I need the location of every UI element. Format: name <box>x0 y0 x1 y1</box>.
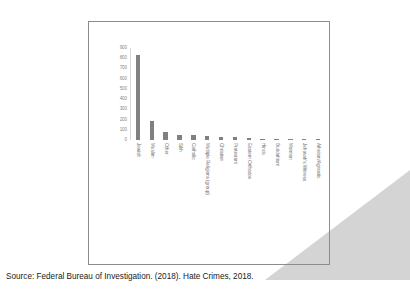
x-label-slot: Mormon <box>283 142 297 262</box>
source-caption: Source: Federal Bureau of Investigation.… <box>6 272 254 282</box>
x-axis-tick-label: Jewish <box>135 143 140 157</box>
x-axis-tick-label: Protestant <box>232 143 237 164</box>
x-axis-labels: JewishMuslimOtherSikhCatholicMultiple Re… <box>131 142 325 262</box>
bar-slot <box>173 48 187 140</box>
bar <box>219 137 224 140</box>
x-axis-tick-label: Muslim <box>149 143 154 158</box>
bar-series <box>131 48 325 140</box>
x-label-slot: Jewish <box>131 142 145 262</box>
x-label-slot: Hindu <box>256 142 270 262</box>
bar-slot <box>256 48 270 140</box>
bar-slot <box>131 48 145 140</box>
x-axis-tick-label: Eastern Orthodox <box>246 143 251 179</box>
y-axis-tick-label: 500 <box>120 87 127 92</box>
x-axis-tick-label: Mormon <box>288 143 293 160</box>
x-axis-tick-label: Christian <box>219 143 224 161</box>
y-axis-tick-label: 200 <box>120 117 127 122</box>
bar <box>302 139 307 140</box>
chart-frame: 9008007006005004003002001000 JewishMusli… <box>88 21 330 265</box>
x-axis-tick-label: Multiple Religions (group) <box>205 143 210 195</box>
bar-slot <box>297 48 311 140</box>
y-axis-tick-label: 700 <box>120 66 127 71</box>
bar <box>136 55 141 140</box>
x-axis-tick-label: Other <box>163 143 168 154</box>
bar-slot <box>228 48 242 140</box>
bar <box>177 135 182 140</box>
chart-plot-wrapper: 9008007006005004003002001000 JewishMusli… <box>107 48 325 163</box>
plot-area <box>131 48 325 140</box>
bar <box>274 139 279 140</box>
bar-slot <box>242 48 256 140</box>
x-label-slot: Protestant <box>228 142 242 262</box>
x-label-slot: Other <box>159 142 173 262</box>
bar-slot <box>270 48 284 140</box>
bar <box>191 135 196 140</box>
x-axis-tick-label: Hindu <box>260 143 265 155</box>
y-axis-tick-label: 300 <box>120 107 127 112</box>
y-axis-tick-label: 800 <box>120 56 127 61</box>
bar <box>150 121 155 140</box>
x-label-slot: Eastern Orthodox <box>242 142 256 262</box>
y-axis-tick-label: 100 <box>120 127 127 132</box>
bar <box>247 138 252 140</box>
y-axis-tick-label: 900 <box>120 46 127 51</box>
y-axis-tick-label: 400 <box>120 97 127 102</box>
bar-slot <box>200 48 214 140</box>
x-label-slot: Multiple Religions (group) <box>200 142 214 262</box>
bar-slot <box>159 48 173 140</box>
y-axis-tick-label: 600 <box>120 76 127 81</box>
bar <box>316 139 321 140</box>
slide-canvas: 9008007006005004003002001000 JewishMusli… <box>0 0 410 296</box>
bar <box>288 139 293 140</box>
x-label-slot: Atheism/Agnostic <box>311 142 325 262</box>
x-label-slot: Christian <box>214 142 228 262</box>
bar <box>163 132 168 140</box>
bar-slot <box>283 48 297 140</box>
x-axis-tick-label: Catholic <box>191 143 196 160</box>
x-label-slot: Sikh <box>173 142 187 262</box>
x-axis-tick-label: Jehovah's Witness <box>302 143 307 181</box>
bar <box>205 136 210 140</box>
y-axis-tick-label: 0 <box>125 138 127 143</box>
bar <box>260 139 265 140</box>
bar-slot <box>145 48 159 140</box>
x-label-slot: Muslim <box>145 142 159 262</box>
bar-slot <box>311 48 325 140</box>
bar <box>233 137 238 140</box>
x-axis-tick-label: Atheism/Agnostic <box>316 143 321 178</box>
bar-slot <box>214 48 228 140</box>
bar-slot <box>186 48 200 140</box>
x-label-slot: Jehovah's Witness <box>297 142 311 262</box>
y-axis: 9008007006005004003002001000 <box>107 48 129 140</box>
x-axis-tick-label: Buddahism <box>274 143 279 166</box>
x-label-slot: Buddahism <box>270 142 284 262</box>
x-axis-tick-label: Sikh <box>177 143 182 152</box>
x-label-slot: Catholic <box>186 142 200 262</box>
